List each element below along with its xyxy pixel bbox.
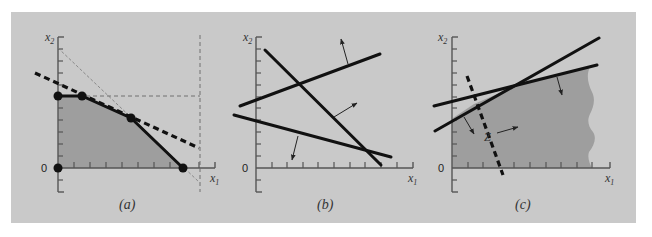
panel-caption: (c) (515, 197, 531, 213)
corner-point (179, 164, 188, 173)
origin-label: 0 (41, 162, 47, 174)
optimal-corner-point (127, 114, 136, 123)
lp-graphical-solutions-figure: x2 x1 0 (a) (0, 0, 652, 237)
panel-caption: (a) (119, 197, 136, 213)
corner-point (78, 92, 87, 101)
panel-caption: (b) (317, 197, 334, 213)
corner-point (54, 92, 63, 101)
objective-label: Z (484, 130, 491, 144)
origin-point (54, 164, 63, 173)
origin-label: 0 (242, 162, 248, 174)
origin-label: 0 (438, 162, 444, 174)
